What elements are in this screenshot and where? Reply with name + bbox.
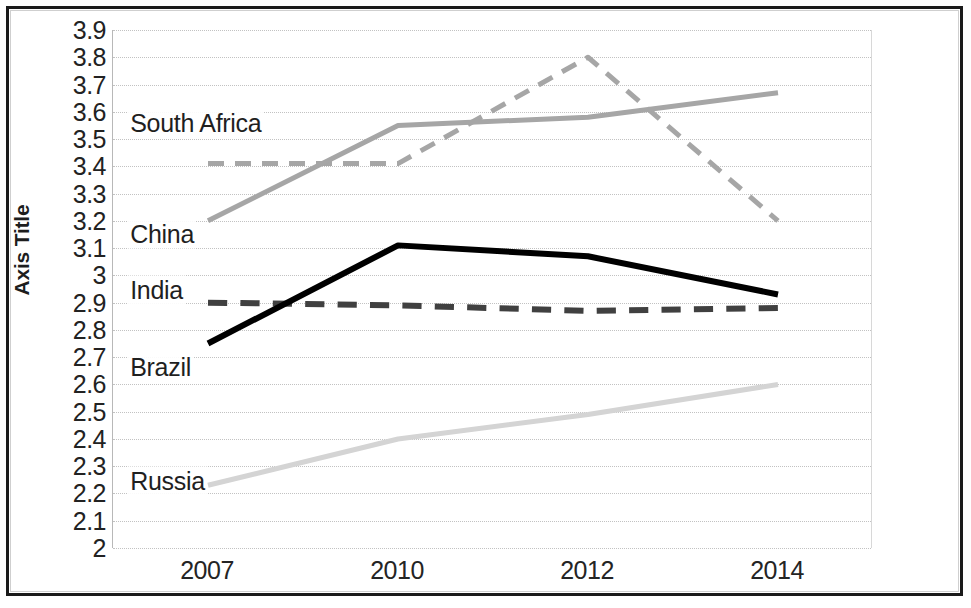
y-axis-tick-labels: 3.93.83.73.63.53.43.33.23.132.92.82.72.6… (34, 0, 106, 608)
y-axis-tick-label: 2.5 (34, 399, 106, 424)
y-axis-tick-label: 2.4 (34, 426, 106, 451)
x-axis-tick-label: 2014 (707, 556, 847, 585)
series-label-brazil: Brazil (128, 352, 193, 381)
y-axis-tick-label: 3 (34, 263, 106, 288)
series-line-south-africa (208, 57, 778, 221)
chart-figure: Axis Title 3.93.83.73.63.53.43.33.23.132… (0, 0, 971, 608)
series-line-brazil (208, 245, 778, 343)
plot-area: South AfricaChinaIndiaBrazilRussia (112, 30, 872, 548)
y-axis-tick-label: 3.8 (34, 45, 106, 70)
y-axis-tick-label: 3.9 (34, 18, 106, 43)
series-line-india (208, 303, 778, 311)
x-axis-tick-labels: 2007201020122014 (112, 556, 872, 596)
y-axis-tick-label: 2.2 (34, 481, 106, 506)
y-axis-tick-label: 2.1 (34, 508, 106, 533)
y-axis-tick-label: 2.7 (34, 345, 106, 370)
series-label-india: India (128, 276, 185, 305)
y-axis-tick-label: 3.4 (34, 154, 106, 179)
y-axis-tick-label: 3.6 (34, 99, 106, 124)
x-axis-tick-label: 2010 (327, 556, 467, 585)
y-axis-tick-label: 2.6 (34, 372, 106, 397)
y-axis-tick-label: 2.3 (34, 454, 106, 479)
y-axis-tick-label: 3.7 (34, 72, 106, 97)
y-axis-tick-label: 3.1 (34, 236, 106, 261)
x-axis-tick-label: 2007 (137, 556, 277, 585)
y-axis-title: Axis Title (10, 190, 34, 310)
series-label-russia: Russia (128, 467, 207, 496)
y-axis-tick-label: 3.3 (34, 181, 106, 206)
series-line-russia (208, 384, 778, 485)
y-axis-tick-label: 2.9 (34, 290, 106, 315)
y-axis-tick-label: 3.2 (34, 208, 106, 233)
series-label-south-africa: South Africa (128, 108, 263, 137)
y-axis-tick-label: 3.5 (34, 127, 106, 152)
series-label-china: China (128, 220, 196, 249)
x-axis-tick-label: 2012 (517, 556, 657, 585)
y-axis-tick-label: 2.8 (34, 317, 106, 342)
gridline (113, 548, 871, 549)
y-axis-tick-label: 2 (34, 536, 106, 561)
